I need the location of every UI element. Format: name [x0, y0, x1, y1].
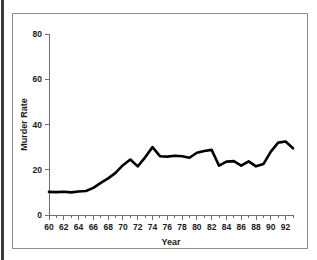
chart-figure-frame: 0204060806062646668707274767880828486889… [12, 13, 308, 249]
x-tick-label: 80 [192, 222, 202, 232]
x-tick-label: 78 [177, 222, 187, 232]
x-tick-label: 92 [281, 222, 291, 232]
y-tick-label: 40 [33, 120, 43, 130]
y-tick-label: 60 [33, 74, 43, 84]
chart-plot-area: 0204060806062646668707274767880828486889… [13, 14, 309, 250]
y-axis-title: Murder Rate [19, 98, 29, 151]
murder-rate-line [49, 141, 293, 192]
x-tick-label: 86 [237, 222, 247, 232]
x-tick-label: 84 [222, 222, 232, 232]
y-tick-label: 20 [33, 165, 43, 175]
x-tick-label: 82 [207, 222, 217, 232]
x-tick-label: 68 [103, 222, 113, 232]
x-tick-label: 76 [163, 222, 173, 232]
figure-page: 0204060806062646668707274767880828486889… [0, 0, 317, 260]
x-tick-label: 90 [266, 222, 276, 232]
x-tick-label: 62 [59, 222, 69, 232]
x-tick-label: 60 [44, 222, 54, 232]
chart-tick-labels: 0204060806062646668707274767880828486889… [33, 29, 291, 232]
x-tick-label: 66 [89, 222, 99, 232]
x-tick-label: 72 [133, 222, 143, 232]
line-chart: 0204060806062646668707274767880828486889… [13, 14, 309, 250]
chart-axes [49, 34, 293, 215]
scan-edge-bar [1, 0, 4, 260]
y-tick-label: 80 [33, 29, 43, 39]
x-axis-title: Year [161, 237, 181, 247]
x-tick-label: 88 [251, 222, 261, 232]
x-tick-label: 74 [148, 222, 158, 232]
x-tick-label: 64 [74, 222, 84, 232]
x-tick-label: 70 [118, 222, 128, 232]
y-tick-label: 0 [37, 210, 42, 220]
